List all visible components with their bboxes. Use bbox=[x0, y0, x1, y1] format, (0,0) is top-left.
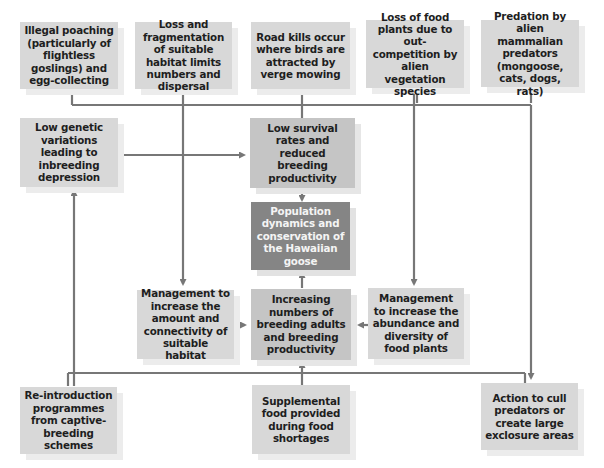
threat-predation-label: Predation by alien mammalian predators (… bbox=[485, 10, 575, 97]
action-supplemental-food-label: Supplemental food provided during food s… bbox=[256, 395, 346, 445]
threat-habitat-loss-box: Loss and fragmentation of suitable habit… bbox=[135, 22, 232, 89]
mgmt-food-box: Management to increase the abundance and… bbox=[368, 288, 464, 359]
low-survival-box: Low survival rates and reduced breeding … bbox=[250, 118, 355, 188]
threat-road-kills-label: Road kills occur where birds are attract… bbox=[255, 31, 346, 81]
low-genetic-box: Low genetic variations leading to inbree… bbox=[20, 118, 118, 187]
mgmt-food-label: Management to increase the abundance and… bbox=[372, 292, 460, 354]
increasing-numbers-box: Increasing numbers of breeding adults an… bbox=[251, 289, 351, 360]
action-reintroduction-box: Re-introduction programmes from captive-… bbox=[20, 387, 117, 454]
low-genetic-label: Low genetic variations leading to inbree… bbox=[24, 121, 114, 183]
threat-poaching-label: Illegal poaching (particularly of flight… bbox=[24, 24, 114, 86]
threat-predation-box: Predation by alien mammalian predators (… bbox=[481, 20, 579, 87]
threat-poaching-box: Illegal poaching (particularly of flight… bbox=[20, 22, 118, 89]
center-topic-label: Population dynamics and conservation of … bbox=[255, 205, 346, 267]
threat-road-kills-box: Road kills occur where birds are attract… bbox=[251, 22, 350, 89]
center-topic-box: Population dynamics and conservation of … bbox=[251, 202, 350, 270]
action-supplemental-food-box: Supplemental food provided during food s… bbox=[252, 385, 350, 454]
threat-food-loss-box: Loss of food plants due to out-competiti… bbox=[366, 20, 464, 88]
action-reintroduction-label: Re-introduction programmes from captive-… bbox=[24, 389, 113, 451]
increasing-numbers-label: Increasing numbers of breeding adults an… bbox=[255, 293, 347, 355]
threat-habitat-loss-label: Loss and fragmentation of suitable habit… bbox=[139, 18, 228, 92]
action-cull-predators-box: Action to cull predators or create large… bbox=[481, 383, 578, 450]
mgmt-habitat-box: Management to increase the amount and co… bbox=[137, 290, 234, 359]
threat-food-loss-label: Loss of food plants due to out-competiti… bbox=[370, 11, 460, 98]
low-survival-label: Low survival rates and reduced breeding … bbox=[254, 122, 351, 184]
action-cull-predators-label: Action to cull predators or create large… bbox=[485, 392, 574, 442]
mgmt-habitat-label: Management to increase the amount and co… bbox=[141, 287, 230, 361]
